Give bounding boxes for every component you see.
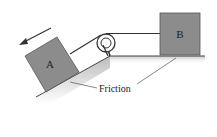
block-a-label: A [46, 58, 54, 70]
pulley [97, 34, 115, 56]
rope-a-to-pulley [70, 35, 101, 54]
friction-label: Friction [99, 83, 131, 94]
block-b: B [160, 13, 200, 55]
pulley-incline-diagram: A B Friction [0, 0, 217, 137]
block-b-label: B [176, 28, 183, 40]
motion-arrow-icon [19, 28, 51, 45]
flat-ground-shade [110, 56, 205, 64]
